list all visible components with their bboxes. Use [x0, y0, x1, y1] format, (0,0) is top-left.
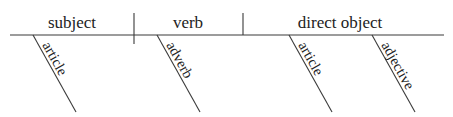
modifier-article-subject: article [39, 39, 71, 78]
direct-object-label: direct object [298, 13, 383, 32]
subject-label: subject [48, 13, 96, 32]
modifier-adverb: adverb [163, 39, 196, 81]
modifier-article-object: article [295, 39, 327, 78]
verb-label: verb [173, 13, 203, 32]
modifier-adjective: adjective [378, 39, 418, 92]
sentence-diagram: subject verb direct object article adver… [0, 0, 453, 117]
